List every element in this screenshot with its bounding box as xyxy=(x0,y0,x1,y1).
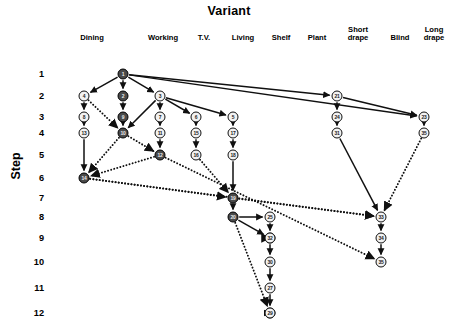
node-19[interactable]: 19 xyxy=(228,193,239,204)
edge-10-to-14 xyxy=(89,138,119,173)
node-23[interactable]: 23 xyxy=(419,112,430,123)
node-32[interactable]: 32 xyxy=(265,233,276,244)
node-8[interactable]: 8 xyxy=(79,112,90,123)
edge-10-to-12 xyxy=(128,136,153,151)
node-12[interactable]: 12 xyxy=(155,150,166,161)
node-31[interactable]: 31 xyxy=(332,128,343,139)
node-24[interactable]: 24 xyxy=(332,112,343,123)
edge-19-to-33 xyxy=(239,199,374,216)
node-29[interactable]: 29 xyxy=(265,308,276,319)
node-35[interactable]: 35 xyxy=(376,257,387,268)
edge-3-to-10 xyxy=(128,100,155,127)
edge-1-to-4 xyxy=(90,77,117,92)
node-33[interactable]: 33 xyxy=(376,212,387,223)
edge-20-to-26 xyxy=(238,220,263,234)
edge-31-to-33 xyxy=(340,138,378,210)
node-11[interactable]: 11 xyxy=(155,128,166,139)
edge-1-to-3 xyxy=(128,77,153,92)
node-4[interactable]: 4 xyxy=(79,91,90,102)
edge-1-to-23 xyxy=(129,75,417,116)
node-17[interactable]: 17 xyxy=(228,128,239,139)
node-1[interactable]: 1 xyxy=(118,69,129,80)
edge-layer xyxy=(0,0,458,333)
edge-16-to-19 xyxy=(200,160,228,193)
node-7[interactable]: 7 xyxy=(155,112,166,123)
edge-4-to-10 xyxy=(88,100,117,128)
node-2[interactable]: 2 xyxy=(118,91,129,102)
node-3[interactable]: 3 xyxy=(155,91,166,102)
node-6[interactable]: 6 xyxy=(191,112,202,123)
node-15[interactable]: 15 xyxy=(191,128,202,139)
edge-12-to-35 xyxy=(166,158,375,259)
node-25[interactable]: 25 xyxy=(265,212,276,223)
node-5[interactable]: 5 xyxy=(228,112,239,123)
edge-35b-to-33 xyxy=(384,139,421,211)
edge-14-to-19 xyxy=(90,179,226,197)
node-10[interactable]: 10 xyxy=(118,128,129,139)
node-20[interactable]: 20 xyxy=(228,212,239,223)
edge-20-to-28 xyxy=(235,223,267,306)
node-13[interactable]: 13 xyxy=(79,128,90,139)
diagram-canvas: Variant Step DiningWorkingT.V.LivingShel… xyxy=(0,0,458,333)
node-14[interactable]: 14 xyxy=(79,173,90,184)
node-9[interactable]: 9 xyxy=(118,112,129,123)
node-30[interactable]: 30 xyxy=(265,257,276,268)
node-21[interactable]: 21 xyxy=(332,91,343,102)
node-35[interactable]: 35 xyxy=(419,128,430,139)
node-16[interactable]: 16 xyxy=(191,150,202,161)
node-27[interactable]: 27 xyxy=(265,283,276,294)
node-34[interactable]: 34 xyxy=(376,233,387,244)
node-18[interactable]: 18 xyxy=(228,150,239,161)
